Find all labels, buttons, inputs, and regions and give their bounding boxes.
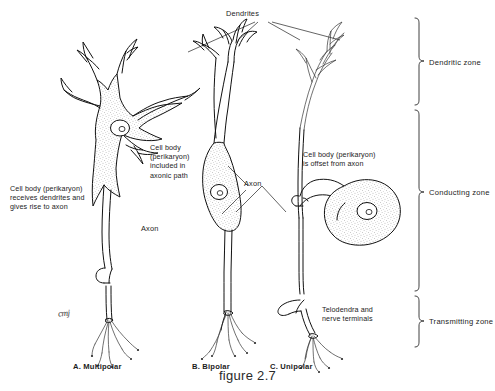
dendrites-leader-lines xyxy=(188,22,340,52)
annotation-bipolar-soma: Cell body (perikaryon) included in axoni… xyxy=(150,143,220,180)
bracket-conducting xyxy=(415,110,424,291)
figure-caption: figure 2.7 xyxy=(0,368,495,383)
bipolar-terminals xyxy=(201,311,256,360)
artist-signature: cmj xyxy=(58,308,70,319)
zone-label-dendritic: Dendritic zone xyxy=(429,58,481,67)
multipolar-terminals xyxy=(91,318,139,368)
label-axon-bipolar: Axon xyxy=(244,179,261,188)
label-dendrites: Dendrites xyxy=(226,9,259,18)
bracket-transmitting xyxy=(415,296,424,347)
zone-label-transmitting: Transmitting zone xyxy=(429,317,493,326)
bracket-dendritic xyxy=(415,18,424,105)
zone-label-conducting: Conducting zone xyxy=(429,188,490,197)
label-axon-multipolar: Axon xyxy=(141,224,158,233)
annotation-multipolar-soma: Cell body (perikaryon) receives dendrite… xyxy=(10,184,140,212)
figure-container: Dendrites Cell body (perikaryon) receive… xyxy=(0,0,495,391)
bipolar-neuron xyxy=(193,19,286,360)
zone-brackets xyxy=(415,18,424,347)
annotation-telodendra: Telodendra and nerve terminals xyxy=(322,305,412,323)
annotation-unipolar-soma: Cell body (perikaryon) is offset from ax… xyxy=(303,150,418,168)
